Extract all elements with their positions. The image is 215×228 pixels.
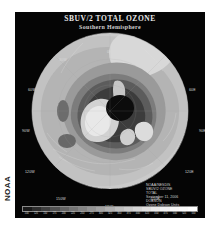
graticule-group xyxy=(32,33,188,189)
colorbar-tick-17: 525 xyxy=(180,212,189,217)
colorbar-tick-13: 425 xyxy=(142,212,151,217)
ozone-map-panel: SBUV/2 TOTAL OZONE Southern Hemisphere xyxy=(15,12,205,218)
lon-label-60w: 60W xyxy=(28,88,36,92)
colorbar-tick-14: 450 xyxy=(152,212,161,217)
colorbar-swatch-3 xyxy=(50,207,59,211)
colorbar-swatch-13 xyxy=(142,207,151,211)
colorbar-tick-16: 500 xyxy=(170,212,179,217)
left-margin: NOAA xyxy=(0,12,15,218)
lon-label-150w: 150W xyxy=(56,197,66,201)
lon-label-0e: 0E xyxy=(107,50,112,54)
colorbar-swatch-8 xyxy=(96,207,105,211)
colorbar-tick-10: 350 xyxy=(115,212,124,217)
noaa-branding-label: NOAA xyxy=(3,169,12,209)
colorbar-swatch-0 xyxy=(23,207,32,211)
colorbar-swatch-7 xyxy=(87,207,96,211)
lon-label-30w: 30W xyxy=(59,58,67,62)
low-blob-lower-left xyxy=(58,134,76,148)
colorbar-tick-11: 375 xyxy=(124,212,133,217)
colorbar-swatch-16 xyxy=(170,207,179,211)
colorbar-swatch-10 xyxy=(115,207,124,211)
colorbar-tick-12: 400 xyxy=(133,212,142,217)
credit-block: NOAA/NESDIS SBUV/2 OZONE TOTAL September… xyxy=(146,184,202,207)
colorbar-tick-labels: 1001251501752002252502753003253503754004… xyxy=(22,212,198,217)
colorbar-swatch-4 xyxy=(60,207,69,211)
colorbar-swatch-15 xyxy=(160,207,169,211)
lon-label-90w: 90W xyxy=(22,129,30,133)
colorbar-swatch-17 xyxy=(179,207,188,211)
lon-label-120w: 120W xyxy=(25,170,35,174)
colorbar-tick-1: 125 xyxy=(31,212,40,217)
colorbar-tick-2: 150 xyxy=(41,212,50,217)
ozone-hole-core xyxy=(106,95,134,121)
colorbar-tick-18: 550 xyxy=(189,212,198,217)
colorbar-swatch-11 xyxy=(124,207,133,211)
colorbar-swatch-2 xyxy=(41,207,50,211)
colorbar-tick-3: 175 xyxy=(50,212,59,217)
colorbar-swatch-18 xyxy=(188,207,197,211)
colorbar-tick-6: 250 xyxy=(78,212,87,217)
lon-label-60e: 60E xyxy=(189,88,196,92)
page-title: SBUV/2 TOTAL OZONE xyxy=(15,14,205,23)
colorbar-tick-7: 275 xyxy=(87,212,96,217)
colorbar-tick-8: 300 xyxy=(96,212,105,217)
colorbar-tick-5: 225 xyxy=(68,212,77,217)
colorbar-tick-4: 200 xyxy=(59,212,68,217)
colorbar-swatch-14 xyxy=(151,207,160,211)
lon-label-120e: 120E xyxy=(185,170,194,174)
colorbar-swatch-12 xyxy=(133,207,142,211)
colorbar-swatch-6 xyxy=(78,207,87,211)
colorbar-swatches xyxy=(22,206,198,212)
colorbar-tick-15: 475 xyxy=(161,212,170,217)
colorbar-tick-0: 100 xyxy=(22,212,31,217)
colorbar-swatch-9 xyxy=(105,207,114,211)
colorbar-tick-9: 325 xyxy=(105,212,114,217)
colorbar-swatch-5 xyxy=(69,207,78,211)
lon-label-30e: 30E xyxy=(154,58,161,62)
colorbar-swatch-1 xyxy=(32,207,41,211)
lon-label-90e: 90E xyxy=(199,129,205,133)
polar-map: 0E 30E 60E 90E 120E 150E 180E 150W 120W … xyxy=(23,29,197,189)
colorbar-legend: 1001251501752002252502753003253503754004… xyxy=(22,206,198,216)
